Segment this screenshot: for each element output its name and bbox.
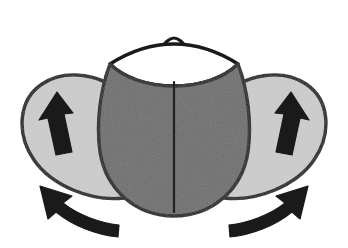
elytra bbox=[98, 64, 249, 216]
figure-container: Beetle with elytra raised and hind wings… bbox=[0, 0, 348, 248]
beetle-wing-diagram: Beetle with elytra raised and hind wings… bbox=[0, 0, 348, 248]
